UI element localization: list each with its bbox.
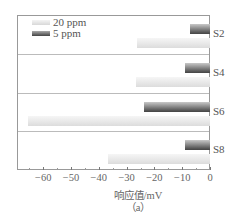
category-label-s2: S2 bbox=[213, 27, 225, 39]
bar-20ppm-s4 bbox=[136, 77, 210, 87]
category-label-s4: S4 bbox=[213, 66, 225, 78]
category-label-s6: S6 bbox=[213, 105, 225, 117]
x-tick bbox=[168, 168, 169, 170]
x-tick-label: 0 bbox=[207, 172, 212, 183]
legend-label: 5 ppm bbox=[53, 28, 81, 39]
x-tick bbox=[43, 167, 44, 170]
x-tick-label: −50 bbox=[63, 172, 79, 183]
bar-5ppm-s8 bbox=[185, 140, 210, 150]
category-separator bbox=[18, 93, 209, 94]
x-tick bbox=[71, 167, 72, 170]
x-tick bbox=[196, 168, 197, 170]
x-tick bbox=[99, 167, 100, 170]
bar-20ppm-s2 bbox=[137, 38, 210, 48]
bar-5ppm-s6 bbox=[144, 102, 210, 112]
legend-swatch-light bbox=[32, 20, 50, 25]
x-tick bbox=[154, 167, 155, 170]
x-tick bbox=[141, 168, 142, 170]
x-tick bbox=[182, 167, 183, 170]
bar-20ppm-s8 bbox=[108, 154, 210, 164]
x-tick-label: −40 bbox=[91, 172, 107, 183]
legend: 20 ppm 5 ppm bbox=[32, 17, 86, 39]
bar-5ppm-s4 bbox=[185, 63, 210, 73]
x-tick bbox=[113, 168, 114, 170]
bar-5ppm-s2 bbox=[190, 24, 210, 34]
x-tick bbox=[210, 167, 211, 170]
x-tick bbox=[127, 167, 128, 170]
x-tick-label: −10 bbox=[174, 172, 190, 183]
x-tick bbox=[57, 168, 58, 170]
x-tick-label: −30 bbox=[118, 172, 134, 183]
x-tick-label: −20 bbox=[146, 172, 162, 183]
bar-20ppm-s6 bbox=[28, 116, 210, 126]
x-tick bbox=[85, 168, 86, 170]
legend-item-5ppm: 5 ppm bbox=[32, 28, 86, 39]
figure-caption: （a） bbox=[0, 199, 240, 214]
x-tick bbox=[29, 168, 30, 170]
category-label-s8: S8 bbox=[213, 143, 225, 155]
x-tick-label: −60 bbox=[35, 172, 51, 183]
legend-swatch-dark bbox=[32, 31, 50, 36]
category-separator bbox=[18, 54, 209, 55]
category-separator bbox=[18, 131, 209, 132]
